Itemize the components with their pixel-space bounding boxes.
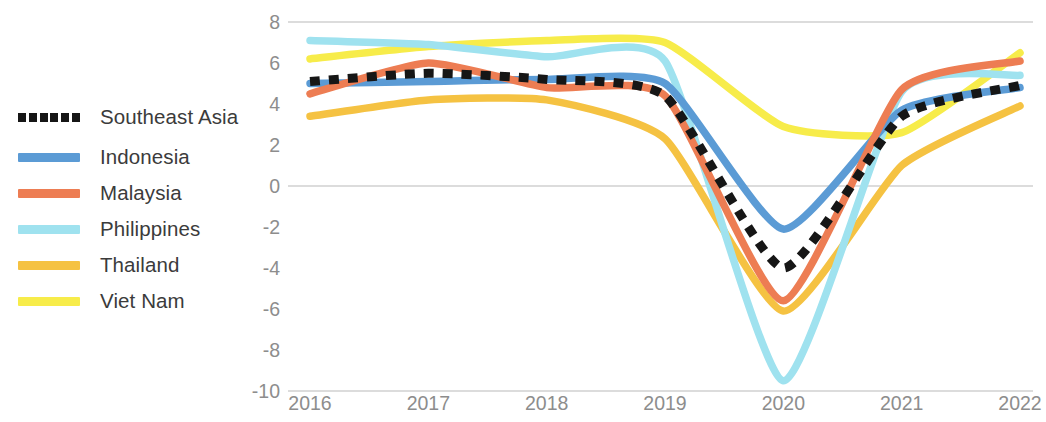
series-line bbox=[310, 61, 1020, 301]
x-axis-tick-label: 2022 bbox=[960, 392, 1046, 415]
y-axis-tick-label: 6 bbox=[232, 52, 280, 75]
y-axis-tick-label: 8 bbox=[232, 11, 280, 34]
y-axis-tick-label: -4 bbox=[232, 257, 280, 280]
x-axis-tick-label: 2019 bbox=[605, 392, 725, 415]
x-axis-tick-label: 2017 bbox=[368, 392, 488, 415]
x-axis-tick-label: 2016 bbox=[250, 392, 370, 415]
x-axis-tick-label: 2020 bbox=[723, 392, 843, 415]
y-axis-tick-label: 0 bbox=[232, 175, 280, 198]
x-axis-tick-label: 2018 bbox=[487, 392, 607, 415]
x-axis-tick-label: 2021 bbox=[842, 392, 962, 415]
y-axis-tick-label: 2 bbox=[232, 134, 280, 157]
y-axis-tick-label: -6 bbox=[232, 298, 280, 321]
y-axis-tick-label: 4 bbox=[232, 93, 280, 116]
y-axis-tick-label: -2 bbox=[232, 216, 280, 239]
y-axis-tick-label: -8 bbox=[232, 339, 280, 362]
